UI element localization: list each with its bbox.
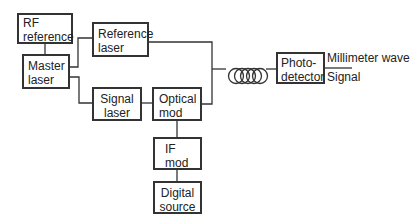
master-laser-block: Master laser [22,54,70,89]
block-label: laser [28,73,64,87]
block-label: laser [98,41,143,55]
block-label: reference [23,30,67,44]
block-label: laser [94,106,140,120]
photodetector-block: Photo- detector [276,52,325,84]
signal-laser-block: Signal laser [92,87,142,121]
block-label: Master [28,59,64,73]
block-label: Reference [98,27,143,41]
block-label: RF [23,16,67,30]
fiber-coil-icon [229,69,268,84]
output-label-millimeter-wave: Millimeter wave [327,51,410,65]
reference-laser-block: Reference laser [92,22,149,57]
digital-source-block: Digital source [153,181,202,214]
rf-reference-block: RF reference [17,13,73,44]
if-mod-block: IF mod [153,137,202,170]
block-label: mod [165,156,200,170]
block-label: Photo- [281,56,323,70]
block-label: Signal [94,92,140,106]
block-label: Digital [155,186,200,200]
block-label: source [155,200,200,214]
block-label: Optical [159,92,200,106]
block-label: detector [281,70,323,84]
optical-mod-block: Optical mod [152,87,202,121]
block-label: mod [159,106,200,120]
output-label-signal: Signal [327,70,360,84]
block-label: IF [165,142,200,156]
